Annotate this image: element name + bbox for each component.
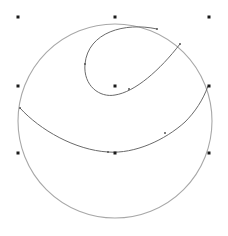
control-point-markers[interactable] bbox=[17, 16, 211, 155]
control-point-ml[interactable] bbox=[17, 85, 20, 88]
diagram-canvas bbox=[0, 0, 228, 236]
control-point-br[interactable] bbox=[208, 152, 211, 155]
curve-node bbox=[179, 43, 181, 45]
inner-loop-curve bbox=[85, 27, 180, 96]
control-point-bc[interactable] bbox=[114, 152, 117, 155]
control-point-tl[interactable] bbox=[17, 16, 20, 19]
lower-arc-curve bbox=[20, 86, 208, 152]
curve-nodes bbox=[19, 28, 181, 153]
control-point-tr[interactable] bbox=[208, 16, 211, 19]
control-point-mr[interactable] bbox=[208, 85, 211, 88]
control-point-mc[interactable] bbox=[114, 85, 117, 88]
control-point-bl[interactable] bbox=[17, 152, 20, 155]
curve-node bbox=[107, 151, 109, 153]
curve-node bbox=[164, 132, 166, 134]
control-point-tc[interactable] bbox=[114, 16, 117, 19]
outer-circle bbox=[18, 24, 212, 218]
curve-node bbox=[128, 88, 130, 90]
curve-node bbox=[19, 107, 21, 109]
curve-node bbox=[156, 28, 158, 30]
curve-node bbox=[84, 63, 86, 65]
geometry-figure bbox=[0, 0, 228, 236]
